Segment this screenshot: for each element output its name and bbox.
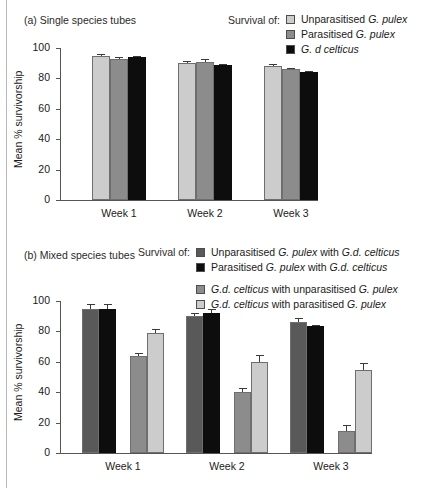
y-axis-tick-label: 40 (24, 385, 50, 397)
y-axis-tick (56, 78, 60, 79)
error-bar-cap (360, 363, 368, 364)
bar (147, 333, 164, 453)
y-axis-tick (56, 48, 60, 49)
error-bar-cap (312, 325, 320, 326)
bar (92, 56, 110, 200)
bar (128, 57, 146, 200)
bar (251, 362, 268, 453)
error-bar-cap (191, 313, 199, 314)
y-axis-tick (56, 139, 60, 140)
bar (186, 316, 203, 453)
error-bar (133, 56, 141, 58)
error-bar (269, 64, 277, 68)
y-axis-tick (56, 301, 60, 302)
bar (307, 326, 324, 453)
error-bar (287, 68, 295, 71)
panel-a-plot: 020406080100Week 1Week 2Week 3Mean % sur… (0, 0, 431, 232)
error-bar (115, 57, 123, 60)
y-axis-tick-label: 40 (24, 132, 50, 144)
y-axis-tick (56, 423, 60, 424)
panel-b-plot: 020406080100Week 1Week 2Week 3Mean % sur… (0, 235, 431, 488)
error-bar-cap (269, 64, 277, 65)
error-bar-cap (183, 61, 191, 62)
bar (300, 72, 318, 200)
error-bar (239, 388, 247, 397)
x-axis-line (60, 200, 318, 201)
error-bar-cap (239, 388, 247, 389)
error-bar-cap (152, 329, 160, 330)
bar (203, 313, 220, 453)
y-axis-tick-label: 100 (24, 41, 50, 53)
error-bar-cap (201, 59, 209, 60)
y-axis-tick-label: 20 (24, 163, 50, 175)
x-axis-category-label: Week 2 (166, 207, 244, 219)
error-bar-cap (133, 56, 141, 57)
figure-container: (a) Single species tubes Survival of: Un… (0, 0, 431, 488)
error-bar (295, 318, 303, 326)
bar (82, 309, 99, 453)
y-axis-tick (56, 331, 60, 332)
error-bar-cap (295, 318, 303, 319)
y-axis-title: Mean % survivorship (12, 324, 24, 421)
y-axis-title: Mean % survivorship (12, 71, 24, 168)
bar (178, 63, 196, 200)
y-axis-tick-label: 60 (24, 102, 50, 114)
y-axis-tick-label: 60 (24, 355, 50, 367)
y-axis-tick (56, 200, 60, 201)
bar (282, 69, 300, 200)
x-axis-category-label: Week 1 (80, 207, 158, 219)
bar (196, 62, 214, 200)
y-axis-tick-label: 100 (24, 294, 50, 306)
error-bar-cap (115, 57, 123, 58)
bar (355, 370, 372, 453)
error-bar (343, 425, 351, 437)
bar (110, 59, 128, 200)
x-axis-category-label: Week 3 (252, 207, 330, 219)
x-axis-category-label: Week 1 (70, 460, 176, 472)
y-axis-tick (56, 392, 60, 393)
error-bar (135, 353, 143, 359)
y-axis-tick-label: 80 (24, 71, 50, 83)
error-bar-stem (363, 363, 364, 370)
y-axis-tick (56, 453, 60, 454)
x-axis-line (60, 453, 372, 454)
error-bar-cap (305, 71, 313, 72)
y-axis-tick (56, 170, 60, 171)
error-bar (256, 355, 264, 369)
y-axis-tick-label: 0 (24, 446, 50, 458)
error-bar (360, 363, 368, 377)
error-bar (152, 329, 160, 337)
bar (99, 309, 116, 453)
y-axis-tick-label: 0 (24, 193, 50, 205)
x-axis-category-label: Week 3 (278, 460, 384, 472)
error-bar (87, 304, 95, 313)
error-bar-cap (208, 309, 216, 310)
error-bar-cap (135, 353, 143, 354)
error-bar-cap (287, 68, 295, 69)
error-bar (201, 59, 209, 64)
x-axis-category-label: Week 2 (174, 460, 280, 472)
y-axis-tick-label: 20 (24, 416, 50, 428)
y-axis-tick-label: 80 (24, 324, 50, 336)
bar (290, 322, 307, 453)
error-bar (104, 304, 112, 313)
bar (264, 66, 282, 200)
error-bar-cap (87, 304, 95, 305)
error-bar-cap (343, 425, 351, 426)
error-bar (219, 64, 227, 66)
error-bar-stem (259, 355, 260, 362)
error-bar (183, 61, 191, 65)
error-bar-cap (256, 355, 264, 356)
error-bar-cap (97, 54, 105, 55)
error-bar-cap (104, 304, 112, 305)
bar (130, 356, 147, 453)
error-bar (191, 313, 199, 319)
y-axis-tick (56, 362, 60, 363)
error-bar (208, 309, 216, 318)
y-axis-line (60, 301, 61, 454)
error-bar (305, 71, 313, 73)
error-bar (97, 54, 105, 58)
y-axis-line (60, 48, 61, 201)
y-axis-tick (56, 109, 60, 110)
error-bar (312, 325, 320, 328)
